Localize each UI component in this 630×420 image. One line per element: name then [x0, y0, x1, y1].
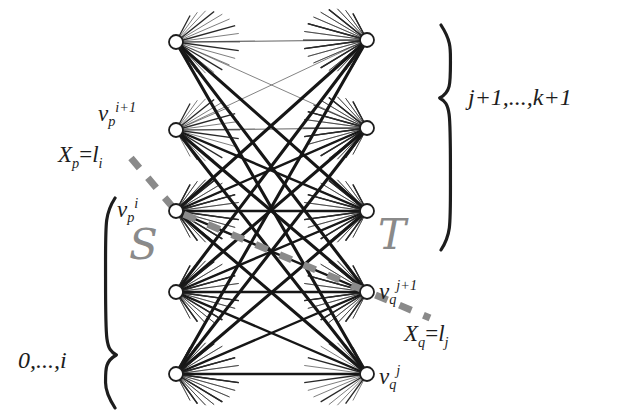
graph-node — [360, 285, 374, 299]
figure-canvas: vpi+1 Xp=li vpi S T vqj+1 Xq=lj vqj 0,..… — [0, 0, 630, 420]
graph-node — [169, 35, 183, 49]
label-set-s: S — [129, 224, 158, 266]
label-xq-equation: Xq=lj — [404, 322, 449, 349]
label-xp-equation: Xp=li — [58, 143, 103, 170]
graph-node — [360, 204, 374, 218]
graph-node — [360, 121, 374, 135]
curly-brace — [106, 198, 117, 408]
label-set-t: T — [378, 214, 406, 256]
graph-node — [360, 33, 374, 47]
label-vq-j-plus-1: vqj+1 — [379, 278, 417, 307]
label-vp-i-plus-1: vpi+1 — [98, 100, 136, 129]
graph-node — [169, 123, 183, 137]
range-label-right: j+1,...,k+1 — [468, 85, 572, 109]
label-vq-j: vqj — [379, 363, 400, 392]
range-label-left: 0,...,i — [18, 348, 67, 372]
curly-brace — [440, 25, 451, 250]
thin-edge-group — [176, 40, 367, 130]
graph-node — [169, 367, 183, 381]
graph-svg — [0, 0, 630, 420]
graph-node — [169, 285, 183, 299]
graph-node — [360, 367, 374, 381]
graph-node — [169, 204, 183, 218]
